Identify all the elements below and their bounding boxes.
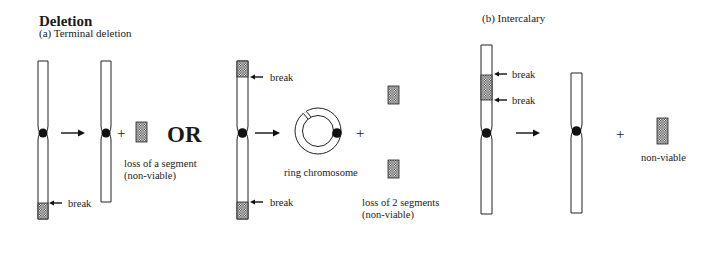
chromosome-result-b bbox=[571, 73, 582, 213]
break-label: break bbox=[68, 198, 92, 209]
plus-sign: + bbox=[117, 125, 125, 141]
non-viable-label: non-viable bbox=[641, 152, 686, 163]
break-arrow-icon bbox=[494, 72, 507, 77]
loss-label-line2: (non-viable) bbox=[362, 209, 414, 221]
break-arrow-icon bbox=[250, 75, 263, 80]
transform-arrow-icon bbox=[255, 130, 280, 137]
break-top-label: break bbox=[512, 69, 536, 80]
lost-segment bbox=[657, 118, 668, 144]
centromere-icon bbox=[572, 126, 582, 136]
lost-segment-bottom bbox=[388, 160, 399, 178]
break-top-label: break bbox=[270, 72, 294, 83]
break-arrow-icon bbox=[49, 201, 62, 206]
ring-chromosome-label: ring chromosome bbox=[284, 167, 358, 178]
break-arrow-icon bbox=[250, 200, 263, 205]
plus-sign: + bbox=[616, 126, 624, 142]
chromosome-original-a1 bbox=[38, 61, 48, 219]
plus-sign: + bbox=[356, 125, 364, 141]
or-label: OR bbox=[167, 122, 202, 147]
centromere-icon bbox=[482, 128, 492, 138]
centromere-icon bbox=[39, 129, 48, 138]
loss-label-line1: loss of a segment bbox=[124, 158, 197, 169]
break-bottom-label: break bbox=[270, 197, 294, 208]
deletion-diagram: Deletion (a) Terminal deletion (b) Inter… bbox=[0, 0, 720, 265]
centromere-icon bbox=[238, 128, 248, 138]
terminal-subtitle: (a) Terminal deletion bbox=[39, 27, 132, 40]
chromosome-original-a2 bbox=[237, 61, 248, 219]
break-bottom-label: break bbox=[512, 95, 536, 106]
ring-chromosome bbox=[295, 108, 342, 154]
chromosome-original-b bbox=[481, 45, 492, 214]
transform-arrow-icon bbox=[61, 130, 85, 137]
lost-segment-top bbox=[388, 86, 399, 104]
loss-label-line1: loss of 2 segments bbox=[362, 197, 439, 208]
centromere-icon bbox=[332, 128, 342, 138]
loss-label-line2: (non-viable) bbox=[124, 170, 176, 182]
chromosome-result-a1 bbox=[101, 61, 111, 202]
lost-segment bbox=[136, 122, 147, 142]
centromere-icon bbox=[102, 129, 111, 138]
transform-arrow-icon bbox=[516, 130, 540, 137]
break-arrow-icon bbox=[494, 98, 507, 103]
intercalary-subtitle: (b) Intercalary bbox=[482, 12, 546, 25]
